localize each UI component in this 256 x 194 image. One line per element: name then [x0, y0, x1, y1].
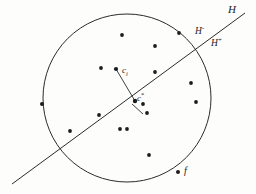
data-point [118, 127, 122, 131]
facility-label-text: f [184, 165, 187, 176]
negative-halfspace-base: H [195, 26, 202, 36]
negative-halfspace-label: H- [195, 25, 204, 37]
hyperplane-label-text: H [228, 3, 236, 15]
data-point [176, 170, 180, 174]
data-point [114, 67, 118, 71]
data-point [153, 70, 157, 74]
hyperplane-label: H [228, 4, 236, 15]
figure-container: H H- H+ ci c* f [0, 0, 256, 194]
data-point [97, 113, 101, 117]
diagram-canvas [0, 0, 256, 194]
data-point [120, 33, 124, 37]
data-point [68, 129, 72, 133]
data-point [153, 44, 157, 48]
optimal-center-sup: * [141, 91, 144, 98]
perpendicular-tick [132, 104, 143, 114]
data-point [147, 153, 151, 157]
data-point [125, 127, 129, 131]
center-i-label: ci [122, 66, 128, 77]
positive-halfspace-base: H [211, 38, 218, 48]
data-point [99, 66, 103, 70]
data-point [194, 100, 198, 104]
data-point [145, 111, 149, 115]
boundary-circle [43, 14, 211, 182]
data-point [40, 102, 44, 106]
facility-label: f [184, 166, 187, 176]
positive-halfspace-sup: + [218, 36, 222, 43]
data-point [177, 31, 181, 35]
optimal-center-label: c* [137, 92, 144, 103]
positive-halfspace-label: H+ [211, 37, 222, 49]
center-i-sub: i [126, 70, 128, 77]
negative-halfspace-sup: - [202, 24, 204, 31]
data-point [189, 81, 193, 85]
